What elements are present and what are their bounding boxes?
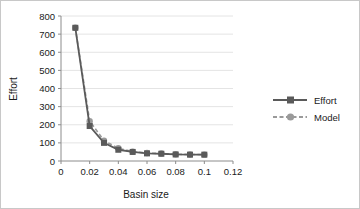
- legend-item-effort[interactable]: Effort: [273, 95, 337, 106]
- data-point-marker: [187, 152, 193, 158]
- data-point-marker: [158, 151, 164, 157]
- data-point-marker: [173, 151, 179, 157]
- data-point-marker: [144, 150, 150, 156]
- x-tick-label: 0.04: [109, 166, 128, 177]
- data-point-marker: [115, 147, 121, 153]
- series-model: [72, 25, 207, 158]
- x-tick-label: 0.02: [80, 166, 99, 177]
- data-point-marker: [87, 123, 93, 129]
- effort-vs-basin-size-chart: 0100200300400500600700800 00.020.040.060…: [1, 1, 360, 209]
- x-axis-title: Basin size: [123, 189, 169, 200]
- x-tick-label: 0.12: [224, 166, 243, 177]
- y-tick-label: 800: [39, 11, 55, 22]
- y-tick-label: 400: [39, 83, 55, 94]
- y-axis-tick-labels: 0100200300400500600700800: [39, 11, 55, 167]
- data-point-marker: [101, 140, 107, 146]
- legend-marker-swatch: [287, 113, 294, 120]
- x-tick-label: 0.1: [198, 166, 211, 177]
- series-effort: [72, 25, 207, 158]
- data-point-marker: [130, 149, 136, 155]
- legend-label: Effort: [314, 95, 337, 106]
- y-tick-label: 0: [50, 156, 55, 167]
- y-tick-label: 200: [39, 119, 55, 130]
- legend-item-model[interactable]: Model: [273, 112, 340, 123]
- data-point-marker: [201, 152, 207, 158]
- y-tick-label: 600: [39, 47, 55, 58]
- legend-marker-swatch: [287, 97, 294, 104]
- chart-legend: EffortModel: [273, 95, 340, 123]
- x-tick-label: 0: [58, 166, 63, 177]
- x-tick-label: 0.06: [138, 166, 157, 177]
- y-tick-label: 300: [39, 101, 55, 112]
- x-axis-tick-labels: 00.020.040.060.080.10.12: [58, 166, 242, 177]
- series-line: [75, 28, 204, 155]
- legend-label: Model: [314, 112, 340, 123]
- x-tick-label: 0.08: [166, 166, 185, 177]
- data-series-group: [72, 25, 207, 158]
- y-axis-title: Effort: [8, 77, 19, 101]
- y-tick-label: 500: [39, 65, 55, 76]
- chart-container: 0100200300400500600700800 00.020.040.060…: [0, 0, 360, 209]
- data-point-marker: [72, 25, 78, 31]
- y-tick-label: 100: [39, 137, 55, 148]
- series-line: [75, 28, 204, 155]
- y-tick-label: 700: [39, 29, 55, 40]
